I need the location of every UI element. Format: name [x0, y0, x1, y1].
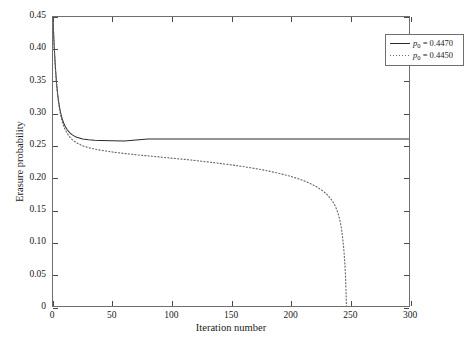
y-tick-right-3 [404, 211, 409, 212]
y-tick-right-1 [404, 275, 409, 276]
x-tick-label-5: 250 [330, 311, 370, 321]
x-tick-top-1 [112, 17, 113, 22]
y-axis-title: Erasure probability [12, 16, 28, 307]
chart-legend: p0 = 0.4470 p0 = 0.4450 [385, 34, 464, 66]
x-tick-5 [351, 301, 352, 306]
y-tick-4 [53, 178, 58, 179]
legend-item-series-0: p0 = 0.4470 [389, 38, 460, 50]
curve-series-0 [53, 19, 409, 141]
y-tick-right-6 [404, 114, 409, 115]
x-tick-1 [112, 301, 113, 306]
x-axis-title: Iteration number [52, 322, 410, 333]
y-tick-right-2 [404, 243, 409, 244]
x-tick-top-5 [351, 17, 352, 22]
y-tick-3 [53, 211, 58, 212]
x-tick-label-1: 50 [92, 311, 132, 321]
legend-value-0: = 0.4470 [421, 38, 453, 48]
plot-area: p0 = 0.4470 p0 = 0.4450 [52, 16, 410, 307]
y-axis-title-wrapper: Erasure probability [6, 16, 22, 307]
legend-swatch-dotted-line [389, 51, 411, 61]
y-tick-1 [53, 275, 58, 276]
x-tick-label-6: 300 [390, 311, 430, 321]
x-tick-top-0 [53, 17, 54, 22]
legend-item-series-1: p0 = 0.4450 [389, 50, 460, 62]
legend-swatch-solid-line [389, 39, 411, 49]
y-tick-8 [53, 49, 58, 50]
x-tick-3 [232, 301, 233, 306]
curve-series-1 [53, 20, 346, 306]
y-tick-right-7 [404, 81, 409, 82]
plot-inner [53, 17, 409, 306]
y-tick-9 [53, 17, 58, 18]
x-tick-top-6 [411, 17, 412, 22]
x-tick-top-3 [232, 17, 233, 22]
x-tick-label-3: 150 [211, 311, 251, 321]
x-tick-0 [53, 301, 54, 306]
y-tick-5 [53, 146, 58, 147]
x-tick-label-4: 200 [271, 311, 311, 321]
y-tick-right-4 [404, 178, 409, 179]
x-tick-6 [411, 301, 412, 306]
y-tick-2 [53, 243, 58, 244]
x-tick-top-4 [291, 17, 292, 22]
curve-layer [53, 17, 409, 306]
x-tick-label-0: 0 [32, 311, 72, 321]
y-tick-right-0 [404, 308, 409, 309]
y-tick-7 [53, 81, 58, 82]
legend-label-series-1: p0 = 0.4450 [413, 50, 453, 63]
y-tick-0 [53, 308, 58, 309]
y-tick-right-9 [404, 17, 409, 18]
x-tick-top-2 [172, 17, 173, 22]
y-tick-6 [53, 114, 58, 115]
y-tick-right-5 [404, 146, 409, 147]
x-tick-4 [291, 301, 292, 306]
legend-value-1: = 0.4450 [421, 50, 453, 60]
x-tick-label-2: 100 [151, 311, 191, 321]
x-tick-2 [172, 301, 173, 306]
